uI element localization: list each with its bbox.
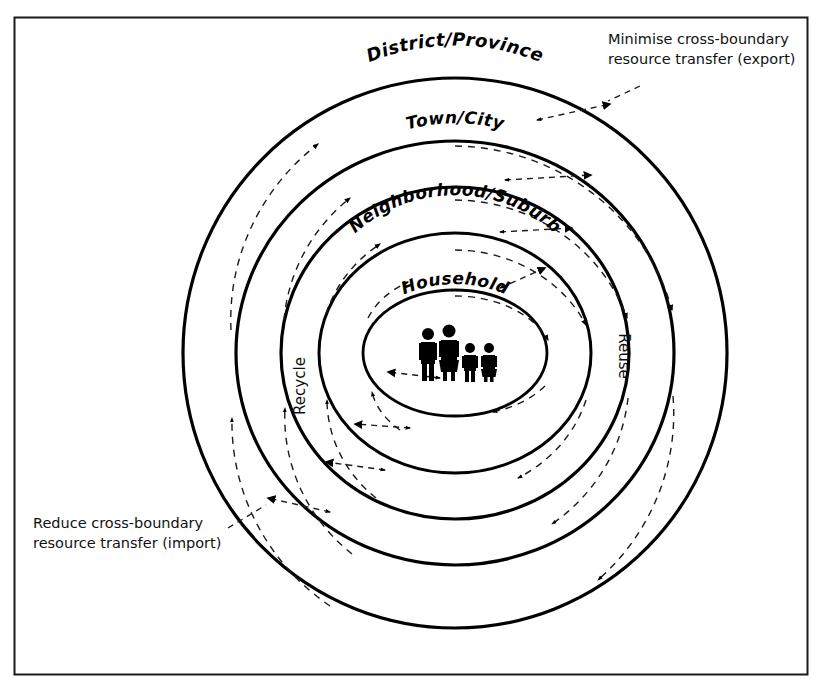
annotation-import-line1: Reduce cross-boundary	[33, 515, 204, 531]
annotation-export-line2: resource transfer (export)	[608, 51, 795, 67]
annotation-import-line2: resource transfer (import)	[33, 535, 221, 551]
diagram-canvas: National/Regional District/Province Town…	[0, 0, 822, 691]
flow-label-reuse: Reuse	[615, 333, 633, 379]
flow-label-recycle: Recycle	[291, 357, 309, 415]
annotation-export-line1: Minimise cross-boundary	[608, 31, 789, 47]
concentric-rings-diagram: National/Regional District/Province Town…	[0, 0, 822, 691]
